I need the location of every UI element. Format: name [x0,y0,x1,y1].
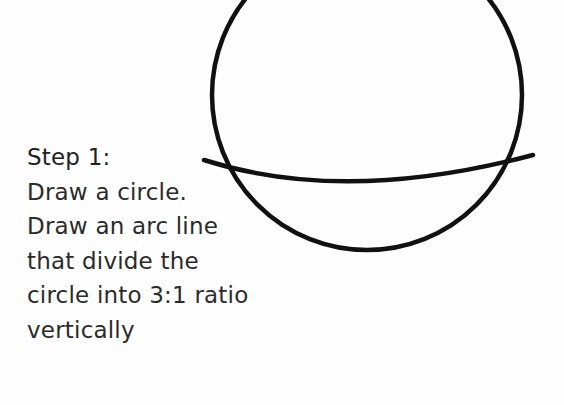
instruction-text: Step 1: Draw a circle. Draw an arc line … [27,140,248,347]
divider-arc-line [204,155,533,181]
tutorial-page: Step 1: Draw a circle. Draw an arc line … [0,0,564,405]
instruction-line: circle into 3:1 ratio [27,278,248,313]
instruction-line: Draw an arc line [27,209,248,244]
instruction-line: Draw a circle. [27,175,248,210]
instruction-line: that divide the [27,244,248,279]
instruction-line: vertically [27,313,248,348]
head-circle [212,0,522,250]
step-title: Step 1: [27,140,248,175]
